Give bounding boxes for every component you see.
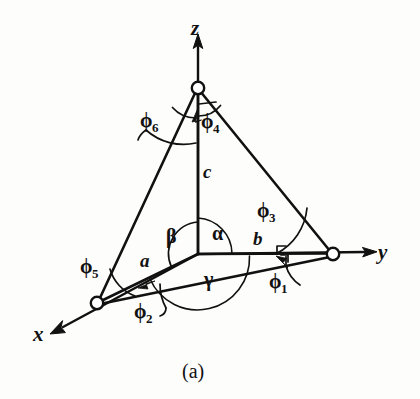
- phi3-sub: 3: [269, 210, 275, 225]
- edge-label-b: b: [253, 228, 263, 250]
- arc-phi2-tail: [160, 308, 166, 316]
- angle-label-phi4: ϕ4: [201, 110, 219, 137]
- angle-label-phi3: ϕ3: [257, 199, 275, 226]
- diagram-canvas: [0, 0, 420, 399]
- crystal-axes-figure: z y x a b c α β γ ϕ1 ϕ2 ϕ3 ϕ4 ϕ5 ϕ6 (a): [0, 0, 420, 399]
- node-x: [91, 297, 103, 309]
- axis-label-z: z: [191, 16, 199, 41]
- angle-label-alpha: α: [212, 222, 223, 245]
- angle-label-phi5: ϕ5: [80, 255, 98, 282]
- figure-caption: (a): [182, 360, 204, 383]
- arc-phi3: [276, 208, 307, 254]
- phi3-base: ϕ: [257, 199, 269, 221]
- angle-label-phi1: ϕ1: [269, 270, 287, 297]
- angle-label-gamma: γ: [204, 268, 213, 291]
- edge-b: [198, 254, 330, 255]
- phi4-base: ϕ: [201, 110, 213, 132]
- axis-label-x: x: [33, 322, 44, 347]
- node-y: [327, 248, 339, 260]
- angle-label-phi6: ϕ6: [140, 109, 158, 136]
- phi6-base: ϕ: [140, 109, 152, 131]
- phi5-sub: 5: [92, 266, 98, 281]
- edge-label-c: c: [203, 161, 211, 183]
- phi4-sub: 4: [213, 121, 219, 136]
- cell-angle-arcs: [150, 218, 250, 310]
- phi4-tick: [199, 102, 216, 104]
- phi5-base: ϕ: [80, 255, 92, 277]
- edge-label-a: a: [140, 250, 150, 272]
- phi2-base: ϕ: [134, 300, 146, 322]
- axis-label-y: y: [378, 240, 387, 265]
- phi3-arc-group: [276, 208, 307, 254]
- phi2-sub: 2: [146, 311, 152, 326]
- phi1-base: ϕ: [269, 270, 281, 292]
- arc-phi6-inner: [173, 108, 197, 119]
- phi6-sub: 6: [152, 120, 158, 135]
- phi1-sub: 1: [281, 281, 287, 296]
- node-z: [192, 82, 204, 94]
- angle-label-phi2: ϕ2: [134, 300, 152, 327]
- angle-label-beta: β: [166, 225, 177, 248]
